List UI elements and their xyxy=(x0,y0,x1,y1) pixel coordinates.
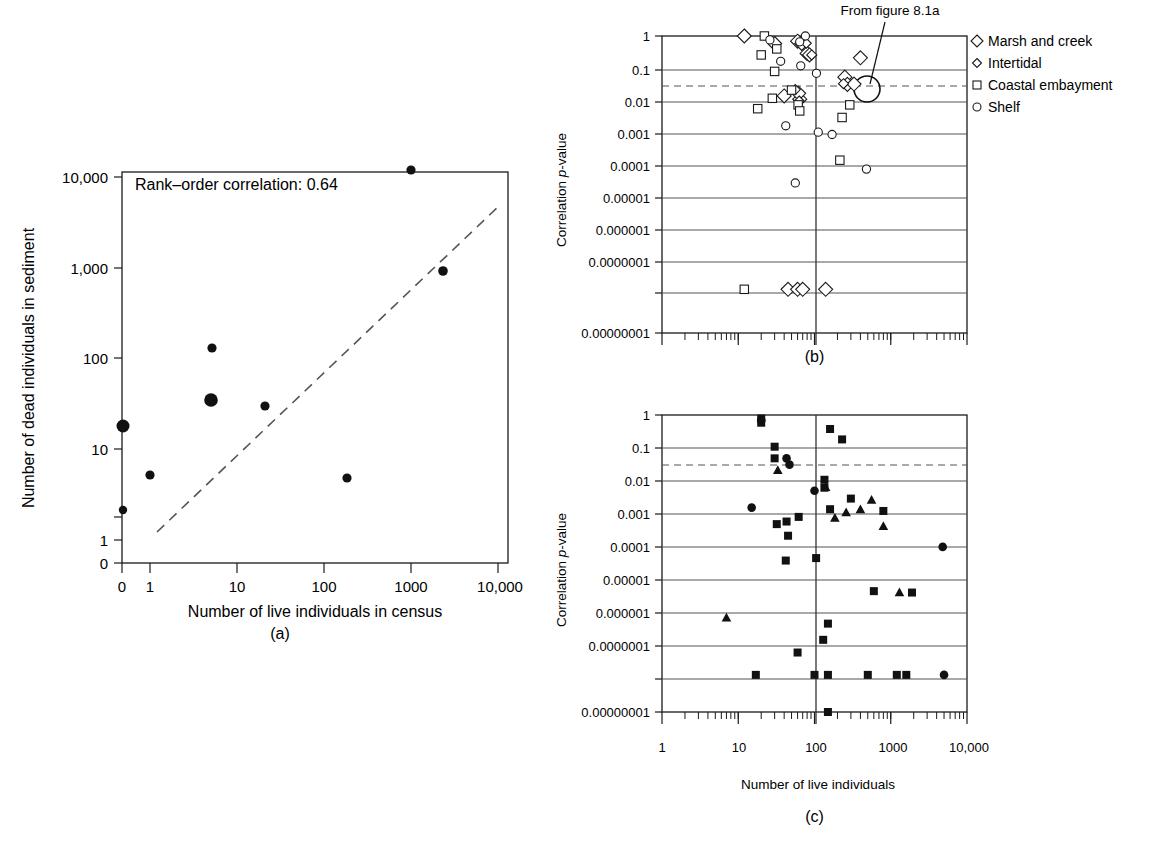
data-point xyxy=(824,620,832,628)
data-point xyxy=(826,425,834,433)
data-point xyxy=(797,62,805,70)
legend-item: Coastal embayment xyxy=(970,74,1159,96)
panel-c: 1 0.1 0.01 0.001 0.0001 0.00001 0.000001… xyxy=(540,380,1159,842)
y-axis-ticks-c xyxy=(655,415,662,712)
y-tick-label-a-1: 1,000 xyxy=(70,260,108,277)
data-point xyxy=(814,128,822,136)
data-point xyxy=(777,57,785,65)
data-point xyxy=(838,113,846,121)
panel-c-caption: (c) xyxy=(662,808,967,826)
x-tick-label-c-3: 1000 xyxy=(879,740,908,755)
data-point xyxy=(783,518,791,526)
y-tick-label-b-6: 0.000001 xyxy=(596,223,650,238)
data-point xyxy=(940,671,949,680)
data-point xyxy=(828,130,836,138)
data-point xyxy=(119,506,127,514)
data-point xyxy=(853,51,867,65)
data-point xyxy=(787,86,795,94)
y-tick-label-b-5: 0.00001 xyxy=(603,191,650,206)
data-point xyxy=(796,38,804,46)
data-point xyxy=(810,486,819,495)
callout-leader-b xyxy=(870,22,885,84)
x-tick-label-c-0: 1 xyxy=(658,740,665,755)
data-point xyxy=(771,443,779,451)
data-point xyxy=(838,435,846,443)
highlight-ring-b xyxy=(854,76,880,102)
gridlines-c xyxy=(662,448,967,679)
coastal-embayment-marker-icon xyxy=(970,78,988,92)
data-point xyxy=(879,521,889,530)
y-tick-label-c-7: 0.0000001 xyxy=(589,639,650,654)
shelf-marker-icon xyxy=(970,100,988,114)
trendline-a xyxy=(157,205,500,532)
data-point xyxy=(768,94,776,102)
data-point xyxy=(204,393,218,407)
y-tick-label-c-6: 0.000001 xyxy=(596,606,650,621)
y-tick-label-a-2: 100 xyxy=(83,350,108,367)
data-point xyxy=(812,554,820,562)
scatter-points-a xyxy=(117,165,448,514)
x-axis-ticks-a xyxy=(122,563,498,573)
y-axis-ticks-a xyxy=(114,177,122,563)
x-axis-ticks-c xyxy=(662,712,967,724)
data-point xyxy=(879,507,887,515)
panel-b-caption: (b) xyxy=(662,348,967,366)
legend-item: Marsh and creek xyxy=(970,30,1159,52)
data-point xyxy=(895,587,905,596)
y-tick-label-c-1: 0.1 xyxy=(632,441,650,456)
data-point xyxy=(791,179,799,187)
scatter-points-c xyxy=(722,415,949,716)
plot-frame-c xyxy=(662,415,967,712)
data-point xyxy=(862,165,870,173)
data-point xyxy=(771,454,779,462)
legend-b: Marsh and creek Intertidal Coastal embay… xyxy=(970,30,1159,118)
data-point xyxy=(820,476,828,484)
y-axis-title-c: Correlation p-value xyxy=(554,513,569,627)
x-axis-title-c: Number of live individuals xyxy=(741,777,895,792)
legend-item: Intertidal xyxy=(970,52,1159,74)
y-tick-label-b-4: 0.0001 xyxy=(610,159,650,174)
marsh-and-creek-marker-icon xyxy=(970,34,988,48)
legend-label-shelf: Shelf xyxy=(988,99,1020,115)
data-point xyxy=(770,67,778,75)
data-point xyxy=(207,343,216,352)
data-point xyxy=(117,420,130,433)
x-tick-label-c-4: 10,000 xyxy=(949,740,989,755)
data-point xyxy=(722,613,732,622)
data-point xyxy=(342,473,351,482)
data-point xyxy=(870,587,878,595)
data-point xyxy=(773,45,781,53)
y-tick-label-a-4: 1 xyxy=(100,532,108,549)
data-point xyxy=(766,36,774,44)
data-point xyxy=(438,266,448,276)
data-point xyxy=(856,504,866,513)
data-point xyxy=(824,671,832,679)
data-point xyxy=(754,104,762,112)
data-point xyxy=(773,465,783,474)
data-point xyxy=(785,460,794,469)
x-tick-label-a-5: 10,000 xyxy=(477,578,523,595)
data-point xyxy=(847,495,855,503)
data-point xyxy=(796,107,804,115)
y-tick-label-c-8: 0.00000001 xyxy=(581,705,650,720)
legend-item: Shelf xyxy=(970,96,1159,118)
legend-label-coastal-embayment: Coastal embayment xyxy=(988,77,1113,93)
data-point xyxy=(794,649,802,657)
data-point xyxy=(406,165,415,174)
x-axis-title-a: Number of live individuals in census xyxy=(188,603,442,620)
data-point xyxy=(836,156,844,164)
x-tick-label-c-1: 10 xyxy=(732,740,746,755)
y-tick-label-c-5: 0.00001 xyxy=(603,573,650,588)
panel-c-svg: 1 0.1 0.01 0.001 0.0001 0.00001 0.000001… xyxy=(540,380,1159,842)
y-tick-label-b-1: 0.1 xyxy=(632,63,650,78)
x-tick-label-a-1: 1 xyxy=(146,578,154,595)
data-point xyxy=(784,532,792,540)
x-tick-label-a-0: 0 xyxy=(118,578,126,595)
y-tick-label-b-7: 0.0000001 xyxy=(589,255,650,270)
y-tick-label-b-2: 0.01 xyxy=(625,95,650,110)
rank-order-correlation-label: Rank–order correlation: 0.64 xyxy=(135,176,338,193)
x-tick-label-a-3: 100 xyxy=(311,578,336,595)
y-tick-label-c-0: 1 xyxy=(643,408,650,423)
data-point xyxy=(757,416,766,425)
scatter-points-b xyxy=(737,29,870,296)
